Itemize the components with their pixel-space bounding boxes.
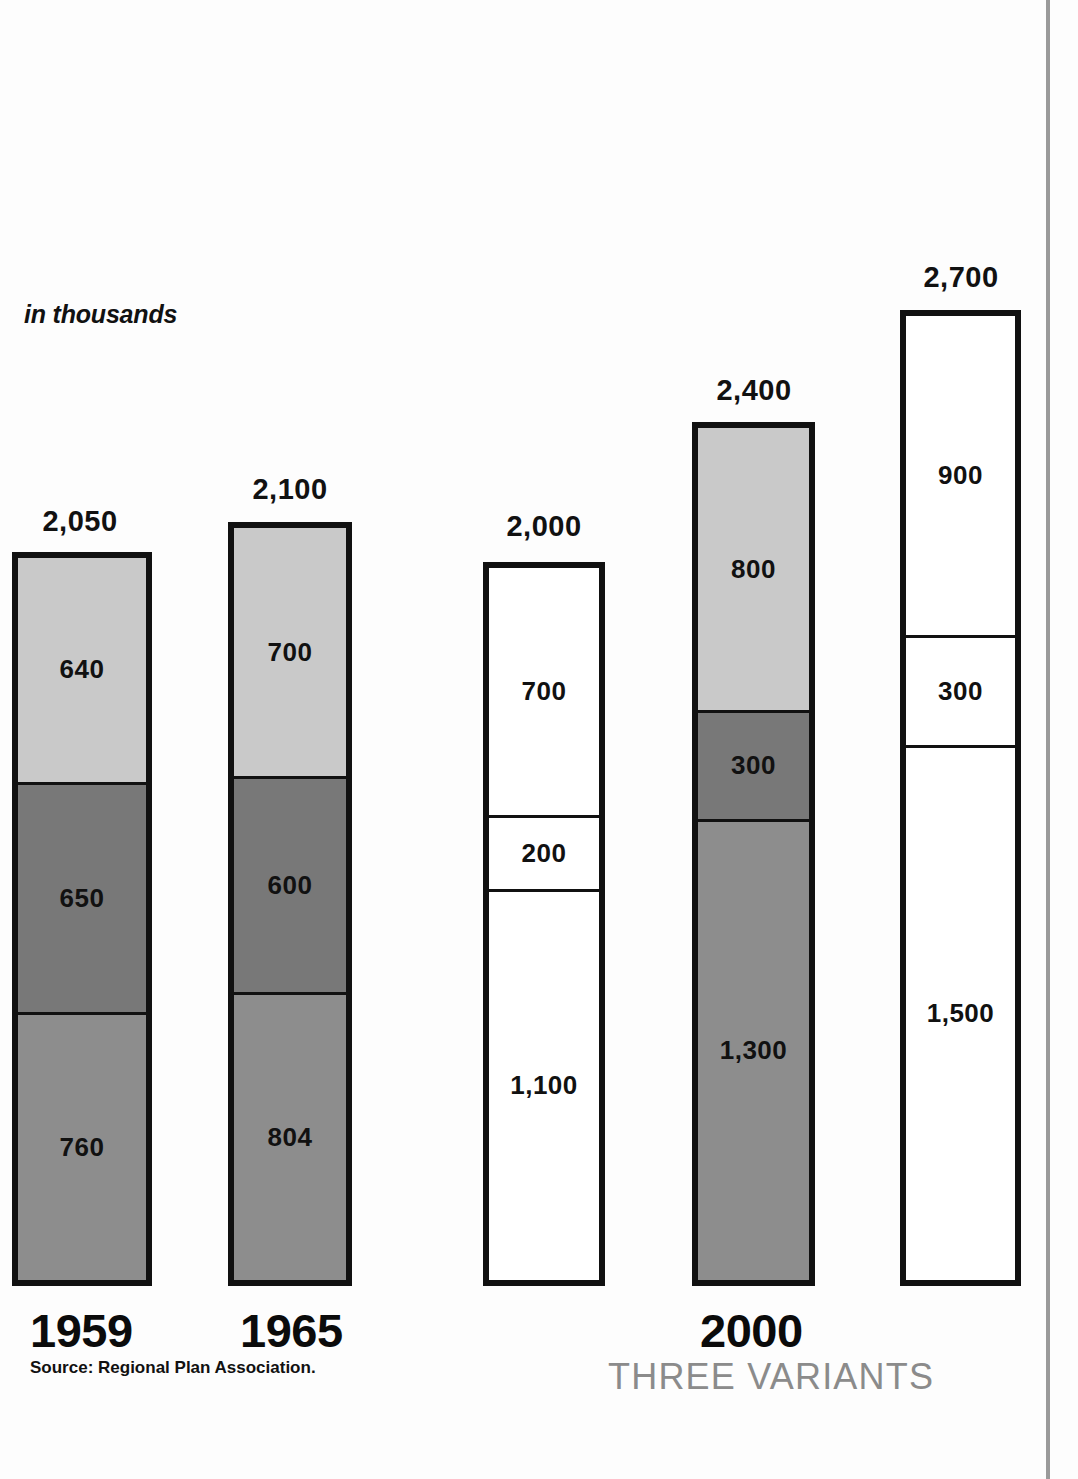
bar-total-label-1959: 2,050 — [10, 505, 150, 538]
source-value: Regional Plan Association. — [98, 1358, 316, 1377]
bar-segment-value: 800 — [731, 554, 776, 585]
page-edge-rule — [1046, 0, 1050, 1479]
bar-segment-value: 700 — [268, 637, 313, 668]
bar-segment-value: 650 — [60, 883, 105, 914]
bar-1965[interactable]: 700 600 804 — [228, 522, 352, 1286]
bar-segment[interactable]: 700 — [234, 528, 346, 776]
x-axis-label-1965: 1965 — [240, 1303, 343, 1358]
bar-segment[interactable]: 600 — [234, 776, 346, 992]
bar-2000-variant-1[interactable]: 700 200 1,100 — [483, 562, 605, 1286]
bar-2000-variant-2[interactable]: 800 300 1,300 — [692, 422, 815, 1286]
units-note: in thousands — [24, 300, 177, 329]
source-note: Source: Regional Plan Association. — [30, 1358, 316, 1378]
bar-segment-value: 200 — [522, 838, 567, 869]
x-axis-label-1959: 1959 — [30, 1303, 133, 1358]
bar-total-label-2000-v2: 2,400 — [692, 374, 816, 407]
bar-total-label-1965: 2,100 — [225, 473, 355, 506]
bar-2000-variant-3[interactable]: 900 300 1,500 — [900, 310, 1021, 1286]
bar-segment-value: 300 — [731, 750, 776, 781]
source-label: Source: — [30, 1358, 93, 1377]
bar-segment[interactable]: 804 — [234, 992, 346, 1280]
bar-1959[interactable]: 640 650 760 — [12, 552, 152, 1286]
bar-segment[interactable]: 200 — [489, 815, 599, 889]
bar-segment[interactable]: 300 — [906, 635, 1015, 744]
three-variants-label: THREE VARIANTS — [608, 1356, 934, 1398]
bar-segment-value: 1,500 — [927, 998, 995, 1029]
bar-segment[interactable]: 1,300 — [698, 819, 809, 1280]
bar-segment[interactable]: 800 — [698, 428, 809, 710]
bar-segment[interactable]: 900 — [906, 316, 1015, 635]
bar-segment-value: 1,300 — [720, 1035, 788, 1066]
bar-segment-value: 900 — [938, 460, 983, 491]
bar-segment[interactable]: 760 — [18, 1012, 146, 1280]
chart-page: in thousands 2,050 640 650 760 1959 2,10… — [0, 0, 1078, 1479]
bar-segment-value: 640 — [60, 654, 105, 685]
bar-segment-value: 700 — [522, 676, 567, 707]
bar-segment-value: 600 — [268, 870, 313, 901]
bar-segment-value: 1,100 — [510, 1070, 578, 1101]
bar-segment[interactable]: 640 — [18, 558, 146, 782]
bar-segment[interactable]: 1,100 — [489, 889, 599, 1280]
bar-segment[interactable]: 700 — [489, 568, 599, 815]
bar-segment[interactable]: 1,500 — [906, 745, 1015, 1280]
bar-segment[interactable]: 300 — [698, 710, 809, 819]
bar-segment[interactable]: 650 — [18, 782, 146, 1012]
bar-segment-value: 760 — [60, 1132, 105, 1163]
x-axis-label-2000: 2000 — [700, 1303, 803, 1358]
bar-total-label-2000-v3: 2,700 — [900, 261, 1022, 294]
bar-total-label-2000-v1: 2,000 — [482, 510, 606, 543]
bar-segment-value: 804 — [268, 1122, 313, 1153]
bar-segment-value: 300 — [938, 676, 983, 707]
